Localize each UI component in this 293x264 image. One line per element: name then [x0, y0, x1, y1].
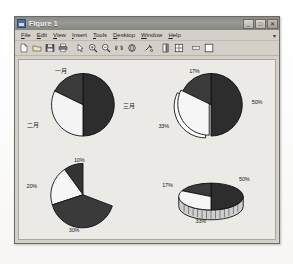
- pie3-label-50-pct: 50%: [239, 176, 249, 182]
- open-file-icon[interactable]: [31, 42, 43, 54]
- menu-item-tools[interactable]: Tools: [90, 30, 110, 40]
- pie3-label-17-pct: 17%: [162, 182, 172, 188]
- pie-label-17-pct: 17%: [189, 68, 199, 74]
- menu-item-desktop[interactable]: Desktop: [110, 30, 138, 40]
- zoom-out-icon[interactable]: [100, 42, 112, 54]
- window-title: Figure 1: [29, 20, 242, 27]
- figure-canvas[interactable]: 一月 二月 三月: [18, 59, 276, 240]
- pie-slice-san-yue[interactable]: [83, 73, 114, 136]
- show-plot-tools-icon[interactable]: [203, 42, 215, 54]
- pie3-label-33-pct: 33%: [196, 218, 206, 224]
- menu-item-file[interactable]: File: [18, 30, 34, 40]
- insert-colorbar-icon[interactable]: [160, 42, 172, 54]
- menu-overflow-chevron-icon[interactable]: ▾: [273, 32, 276, 39]
- subplot-grid: 一月 二月 三月: [19, 60, 275, 239]
- pie-slice-50[interactable]: [211, 73, 242, 136]
- pie-label-30-pct: 30%: [69, 227, 79, 233]
- print-figure-icon[interactable]: [57, 42, 69, 54]
- subplot-top-left[interactable]: 一月 二月 三月: [19, 60, 147, 150]
- menu-item-window[interactable]: Window: [138, 30, 165, 40]
- pie-label-50-pct: 50%: [252, 99, 262, 105]
- pie-bottom-right-3d[interactable]: [147, 150, 275, 240]
- subplot-bottom-right[interactable]: 17% 33% 50%: [147, 150, 275, 240]
- menu-item-view[interactable]: View: [50, 30, 69, 40]
- pie-label-10-pct: 10%: [74, 157, 84, 163]
- pie-label-20-pct: 20%: [27, 183, 37, 189]
- rotate-3d-icon[interactable]: [126, 42, 138, 54]
- save-figure-icon[interactable]: [44, 42, 56, 54]
- matlab-figure-icon: [17, 19, 26, 28]
- menu-item-insert[interactable]: Insert: [69, 30, 90, 40]
- menu-item-help[interactable]: Help: [165, 30, 183, 40]
- pan-hand-icon[interactable]: [113, 42, 125, 54]
- pie-label-33-pct: 33%: [158, 123, 168, 129]
- title-bar[interactable]: Figure 1 _ □ ✕: [15, 17, 279, 30]
- edit-plot-arrow-icon[interactable]: [74, 42, 86, 54]
- menu-item-edit[interactable]: Edit: [34, 30, 50, 40]
- subplot-bottom-left[interactable]: 10% 20% 30%: [19, 150, 147, 240]
- pie-label-san-yue: 三月: [123, 100, 135, 109]
- new-figure-icon[interactable]: [18, 42, 30, 54]
- hide-plot-tools-icon[interactable]: [190, 42, 202, 54]
- figure-window[interactable]: Figure 1 _ □ ✕ File Edit View Insert Too…: [14, 16, 280, 244]
- insert-legend-icon[interactable]: [173, 42, 185, 54]
- data-cursor-icon[interactable]: [143, 42, 155, 54]
- pie-label-er-yue: 二月: [27, 120, 39, 129]
- subplot-top-right[interactable]: 17% 33% 50%: [147, 60, 275, 150]
- close-button[interactable]: ✕: [267, 19, 278, 29]
- toolbar: [15, 41, 279, 56]
- pie-label-yi-yue: 一月: [55, 65, 67, 74]
- maximize-button[interactable]: □: [255, 19, 266, 29]
- zoom-in-icon[interactable]: [87, 42, 99, 54]
- minimize-button[interactable]: _: [243, 19, 254, 29]
- menu-bar: File Edit View Insert Tools Desktop Wind…: [15, 30, 279, 41]
